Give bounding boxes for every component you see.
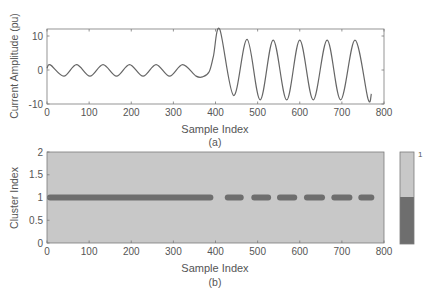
x-tick-label: 800 bbox=[376, 107, 393, 118]
panel-b-x-axis-label: Sample Index bbox=[181, 262, 249, 274]
cluster-segment bbox=[277, 195, 297, 201]
x-tick-label: 800 bbox=[376, 246, 393, 257]
panel-a-caption: (a) bbox=[209, 136, 222, 148]
cluster-segment bbox=[358, 195, 374, 201]
panel-b-y-axis-label: Cluster Index bbox=[8, 166, 20, 229]
x-tick-label: 500 bbox=[249, 246, 266, 257]
cluster-segment bbox=[331, 195, 352, 201]
x-tick-label: 0 bbox=[44, 246, 50, 257]
cluster-segment bbox=[304, 195, 325, 201]
panel-a-y-axis-label: Current Amplitude (pu) bbox=[8, 13, 20, 119]
panel-a-x-axis-label: Sample Index bbox=[181, 123, 249, 135]
colorbar: 1 bbox=[400, 150, 423, 244]
cluster-segment bbox=[47, 195, 213, 201]
x-tick-label: 100 bbox=[81, 107, 98, 118]
y-tick-label: 1 bbox=[37, 192, 43, 203]
colorbar-level-1 bbox=[400, 152, 414, 197]
x-tick-label: 700 bbox=[334, 107, 351, 118]
x-tick-label: 0 bbox=[44, 107, 50, 118]
cluster-segment bbox=[251, 195, 271, 201]
y-tick-label: 1.5 bbox=[29, 169, 43, 180]
figure-svg: 0100200300400500600700800-10010 Sample I… bbox=[0, 0, 434, 301]
colorbar-tick-label: 1 bbox=[418, 150, 423, 159]
x-tick-label: 400 bbox=[207, 107, 224, 118]
panel-a-current-waveform: 0100200300400500600700800-10010 Sample I… bbox=[8, 13, 393, 148]
x-tick-label: 300 bbox=[165, 107, 182, 118]
colorbar-level-0 bbox=[400, 197, 414, 244]
x-tick-label: 600 bbox=[291, 107, 308, 118]
panel-b-cluster-index: 010020030040050060070080000.511.52 Sampl… bbox=[8, 147, 423, 289]
figure: 0100200300400500600700800-10010 Sample I… bbox=[0, 0, 434, 301]
y-tick-label: 0.5 bbox=[29, 215, 43, 226]
x-tick-label: 300 bbox=[165, 246, 182, 257]
y-tick-label: 2 bbox=[37, 147, 43, 158]
y-tick-label: 0 bbox=[37, 238, 43, 249]
x-tick-label: 200 bbox=[123, 246, 140, 257]
x-tick-label: 600 bbox=[291, 246, 308, 257]
x-tick-label: 400 bbox=[207, 246, 224, 257]
y-tick-label: 10 bbox=[32, 31, 44, 42]
x-tick-label: 700 bbox=[334, 246, 351, 257]
x-tick-label: 200 bbox=[123, 107, 140, 118]
cluster-segment bbox=[225, 195, 244, 201]
panel-b-caption: (b) bbox=[209, 276, 222, 288]
x-tick-label: 100 bbox=[81, 246, 98, 257]
y-tick-label: 0 bbox=[37, 65, 43, 76]
x-tick-label: 500 bbox=[249, 107, 266, 118]
y-tick-label: -10 bbox=[29, 99, 44, 110]
